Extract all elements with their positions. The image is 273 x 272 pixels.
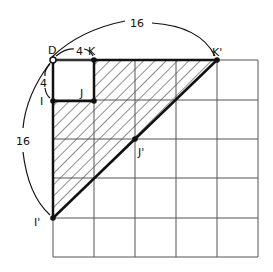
point-i: [50, 98, 56, 104]
point-i-prime: [50, 215, 56, 221]
label-k: K: [88, 45, 96, 58]
label-j: J: [79, 87, 83, 100]
label-j-prime: J': [137, 146, 144, 159]
label-di-prime-length: 16: [16, 135, 30, 148]
point-j-prime: [132, 136, 138, 142]
point-j: [91, 98, 97, 104]
arc-di-prime-16-top: [23, 63, 50, 128]
arc-dk-prime-16-right: [152, 23, 215, 56]
label-i: I: [40, 95, 43, 108]
dilation-diagram: D K I J K' J' I' 4 4 16 16: [0, 0, 273, 272]
arc-dk-4-left: [56, 49, 74, 56]
label-d: D: [48, 44, 56, 57]
label-dk-prime-length: 16: [130, 17, 144, 30]
label-dk-length: 4: [76, 45, 83, 58]
arc-di-prime-16-bottom: [23, 152, 50, 215]
point-d: [50, 57, 56, 63]
point-k: [91, 57, 97, 63]
label-i-prime: I': [34, 216, 40, 229]
small-square-outline: [53, 60, 94, 101]
label-di-length: 4: [40, 77, 47, 90]
label-k-prime: K': [212, 46, 222, 59]
